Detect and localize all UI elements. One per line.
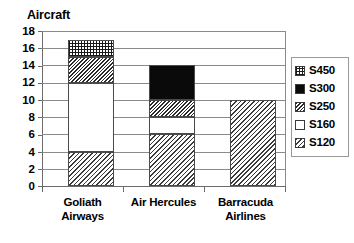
y-axis-tick-label: 16	[10, 43, 35, 55]
bar-segment-s250-air-hercules[interactable]	[149, 100, 195, 117]
y-axis-tick-label: 8	[10, 112, 35, 124]
x-axis-divider	[285, 186, 286, 192]
legend-item-s120[interactable]: S120	[295, 134, 345, 152]
bar-stack-goliath-airways[interactable]	[68, 31, 114, 186]
x-label-line1: Air Hercules	[121, 196, 206, 210]
legend-swatch-s300-icon	[295, 84, 305, 94]
bar-segment-s160-goliath-airways[interactable]	[68, 83, 114, 152]
y-axis-tick-label: 2	[10, 164, 35, 176]
legend-swatch-s450-icon	[295, 66, 305, 76]
legend-item-s300[interactable]: S300	[295, 80, 345, 98]
bar-segment-s450-goliath-airways[interactable]	[68, 40, 114, 57]
legend-swatch-s160-icon	[295, 120, 305, 130]
legend-label-s120: S120	[309, 137, 335, 149]
bar-segment-s160-air-hercules[interactable]	[149, 117, 195, 134]
x-axis-label-air-hercules: Air Hercules	[121, 196, 206, 210]
x-axis-divider	[123, 186, 124, 192]
stacked-bar-chart: Aircraft 18 16 14 12 10 8 6 4 2 0	[0, 0, 354, 243]
legend-label-s250: S250	[309, 101, 335, 113]
x-label-line2: Airways	[42, 210, 123, 224]
bar-segment-s120-air-hercules[interactable]	[149, 134, 195, 186]
plot-area	[42, 31, 285, 186]
x-label-line1: Barracuda	[203, 196, 288, 210]
bar-stack-barracuda-airlines[interactable]	[230, 31, 276, 186]
bar-segment-s250-goliath-airways[interactable]	[68, 57, 114, 83]
y-axis-tick-label: 12	[10, 77, 35, 89]
legend-swatch-s120-icon	[295, 138, 305, 148]
plot-right-border	[285, 31, 286, 187]
x-axis-label-goliath-airways: Goliath Airways	[42, 196, 123, 223]
bar-segment-s300-air-hercules[interactable]	[149, 65, 195, 99]
legend-item-s450[interactable]: S450	[295, 62, 345, 80]
legend-swatch-s250-icon	[295, 102, 305, 112]
y-axis-tick-label: 18	[10, 26, 35, 38]
legend-label-s160: S160	[309, 119, 335, 131]
legend-label-s300: S300	[309, 83, 335, 95]
legend-label-s450: S450	[309, 65, 335, 77]
x-axis-divider	[42, 186, 43, 192]
x-axis-label-barracuda-airlines: Barracuda Airlines	[203, 196, 288, 223]
y-axis-tick-label: 6	[10, 129, 35, 141]
chart-legend: S450 S300 S250 S160 S120	[291, 57, 349, 157]
y-axis-tick-label: 10	[10, 95, 35, 107]
x-label-line1: Goliath	[42, 196, 123, 210]
x-label-line2: Airlines	[203, 210, 288, 224]
bar-stack-air-hercules[interactable]	[149, 31, 195, 186]
bar-segment-s120-goliath-airways[interactable]	[68, 152, 114, 186]
gridline-baseline	[42, 186, 285, 187]
legend-item-s160[interactable]: S160	[295, 116, 345, 134]
y-axis-tick-label: 4	[10, 147, 35, 159]
y-axis-tick-label: 14	[10, 60, 35, 72]
bar-segment-s120-barracuda-airlines[interactable]	[230, 100, 276, 186]
y-axis-tick-label: 0	[10, 181, 35, 193]
legend-item-s250[interactable]: S250	[295, 98, 345, 116]
x-axis-divider	[204, 186, 205, 192]
